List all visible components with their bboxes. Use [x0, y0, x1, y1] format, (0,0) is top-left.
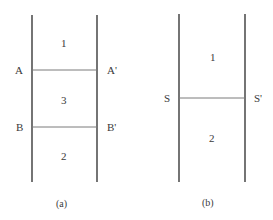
interface-label-b-prime: B': [107, 122, 116, 133]
diagram-canvas: [0, 0, 273, 220]
interface-label-a: A: [15, 65, 23, 76]
caption-a: (a): [56, 199, 67, 209]
caption-b: (b): [202, 198, 214, 208]
diagram-b: [179, 14, 245, 182]
interface-label-a-prime: A': [107, 65, 117, 76]
region-label-b-1: 1: [210, 52, 216, 63]
region-label-a-2: 2: [61, 151, 67, 162]
region-label-a-3: 3: [61, 95, 67, 106]
region-label-a-1: 1: [61, 38, 67, 49]
interface-label-s-prime: S': [254, 93, 262, 104]
region-label-b-2: 2: [209, 133, 215, 144]
interface-label-s: S: [164, 93, 170, 104]
interface-label-b: B: [16, 122, 23, 133]
